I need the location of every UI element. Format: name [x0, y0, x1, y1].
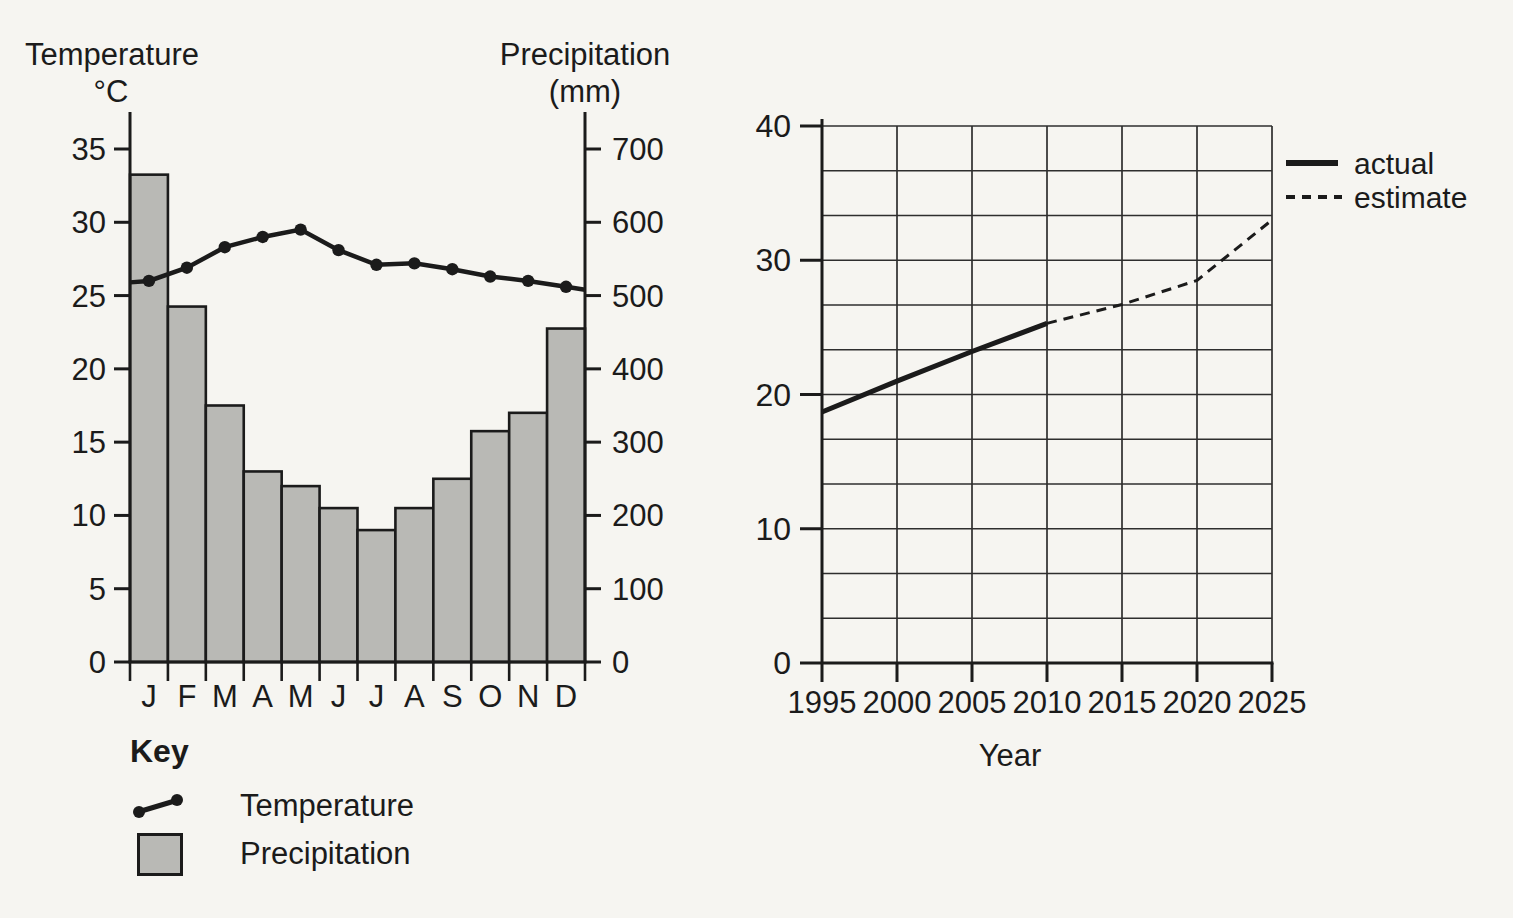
svg-text:2010: 2010	[1013, 685, 1082, 720]
temperature-point	[560, 281, 572, 293]
precipitation-title-text: Precipitation	[483, 36, 687, 73]
precipitation-bar	[433, 479, 471, 662]
svg-text:2000: 2000	[863, 685, 932, 720]
actual-line	[822, 323, 1047, 412]
svg-text:10: 10	[755, 511, 791, 547]
svg-text:F: F	[177, 679, 196, 714]
temperature-title-text: Temperature	[25, 36, 197, 73]
svg-text:20: 20	[755, 377, 791, 413]
temperature-point	[408, 257, 420, 269]
temperature-point	[370, 259, 382, 271]
estimate-line-icon	[1284, 192, 1342, 202]
svg-text:A: A	[252, 679, 273, 714]
svg-text:200: 200	[612, 498, 664, 533]
year-axis-label: Year	[930, 738, 1090, 774]
key-item-precipitation: Precipitation	[130, 830, 414, 878]
svg-text:700: 700	[612, 132, 664, 167]
projection-grid	[822, 126, 1272, 663]
precipitation-bars	[130, 175, 585, 662]
precipitation-axis-title: Precipitation (mm)	[483, 36, 687, 110]
svg-text:35: 35	[72, 132, 106, 167]
temperature-line-icon	[130, 791, 190, 821]
precipitation-bar	[358, 530, 396, 662]
svg-text:25: 25	[72, 279, 106, 314]
svg-text:M: M	[212, 679, 238, 714]
svg-text:600: 600	[612, 205, 664, 240]
key-title: Key	[130, 733, 414, 770]
svg-text:D: D	[555, 679, 577, 714]
precipitation-bar	[282, 486, 320, 662]
temperature-point	[446, 263, 458, 275]
svg-text:O: O	[478, 679, 502, 714]
svg-text:J: J	[331, 679, 347, 714]
svg-text:S: S	[442, 679, 463, 714]
precipitation-bar	[395, 508, 433, 662]
key-item-temperature: Temperature	[130, 782, 414, 830]
svg-text:0: 0	[773, 645, 791, 681]
temperature-point	[181, 262, 193, 274]
scanned-charts-page: 353025201510507006005004003002001000JFMA…	[0, 0, 1513, 918]
temperature-point	[143, 275, 155, 287]
precipitation-bar	[206, 406, 244, 663]
temperature-point	[257, 231, 269, 243]
legend-item-actual: actual	[1284, 146, 1467, 180]
svg-text:2020: 2020	[1163, 685, 1232, 720]
legend-item-estimate: estimate	[1284, 180, 1467, 214]
svg-text:40: 40	[755, 108, 791, 144]
projection-axis-ticks: 4030201001995200020052010201520202025	[755, 108, 1306, 720]
key-precipitation-label: Precipitation	[240, 836, 411, 872]
svg-text:J: J	[369, 679, 385, 714]
svg-text:10: 10	[72, 498, 106, 533]
svg-text:20: 20	[72, 352, 106, 387]
svg-text:500: 500	[612, 279, 664, 314]
temperature-title-unit: °C	[25, 73, 197, 110]
key-temperature-label: Temperature	[240, 788, 414, 824]
svg-text:30: 30	[755, 242, 791, 278]
legend-estimate-label: estimate	[1354, 181, 1467, 214]
svg-text:A: A	[404, 679, 425, 714]
precipitation-bar	[471, 431, 509, 662]
svg-text:0: 0	[89, 645, 106, 680]
svg-text:2005: 2005	[938, 685, 1007, 720]
svg-text:300: 300	[612, 425, 664, 460]
precipitation-bar	[244, 471, 282, 662]
precipitation-bar	[168, 307, 206, 662]
svg-text:2015: 2015	[1088, 685, 1157, 720]
precipitation-bar	[547, 329, 585, 662]
temperature-point	[219, 241, 231, 253]
temperature-axis-title: Temperature °C	[25, 36, 197, 110]
svg-text:N: N	[517, 679, 539, 714]
estimate-line	[1047, 220, 1272, 323]
svg-text:0: 0	[612, 645, 629, 680]
svg-text:M: M	[288, 679, 314, 714]
precipitation-swatch-icon	[137, 833, 183, 876]
temperature-point	[522, 275, 534, 287]
legend-actual-label: actual	[1354, 147, 1434, 180]
temperature-line	[130, 230, 585, 290]
temperature-point	[294, 223, 306, 235]
svg-text:J: J	[141, 679, 157, 714]
svg-text:100: 100	[612, 572, 664, 607]
precipitation-bar	[320, 508, 358, 662]
key: Key Temperature Precipitation	[130, 733, 414, 878]
svg-text:1995: 1995	[788, 685, 857, 720]
svg-text:30: 30	[72, 205, 106, 240]
precipitation-title-unit: (mm)	[483, 73, 687, 110]
precipitation-bar	[130, 175, 168, 662]
svg-text:5: 5	[89, 572, 106, 607]
temperature-point	[332, 244, 344, 256]
svg-text:2025: 2025	[1238, 685, 1307, 720]
precipitation-bar	[509, 413, 547, 662]
temperature-point	[484, 270, 496, 282]
actual-line-icon	[1284, 158, 1342, 168]
projection-legend: actual estimate	[1284, 146, 1467, 214]
svg-text:400: 400	[612, 352, 664, 387]
svg-text:15: 15	[72, 425, 106, 460]
